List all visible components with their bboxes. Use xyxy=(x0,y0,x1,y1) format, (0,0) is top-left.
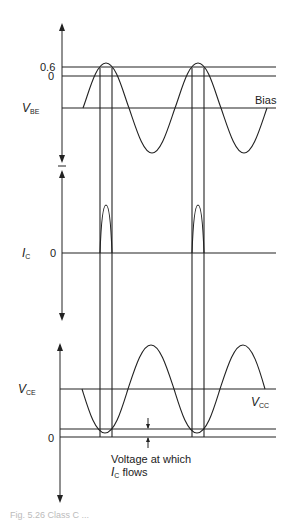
vbe-bias-label: Bias xyxy=(255,94,277,106)
ic-axis-arrow-down-icon xyxy=(59,313,65,321)
vbe-axis-arrow-up-icon xyxy=(59,23,65,31)
ic-axis-arrow-up-icon xyxy=(59,170,65,178)
vbe-level-0-label: 0 xyxy=(48,70,54,82)
vce-zero-label: 0 xyxy=(48,432,54,444)
vce-axis-arrow-up-icon xyxy=(57,343,63,351)
vbe-axis-arrow-down-icon xyxy=(59,155,65,163)
ic-pulse-1 xyxy=(100,205,112,253)
arrow-down-icon xyxy=(146,424,150,429)
ic-zero-label: 0 xyxy=(50,247,56,259)
ic-panel: 0 IC xyxy=(22,170,276,321)
arrow-up-icon xyxy=(146,437,150,442)
ic-axis-label: IC xyxy=(22,246,30,260)
vce-axis-arrow-down-icon xyxy=(57,495,63,503)
vce-annotation-line1: Voltage at which xyxy=(111,453,191,465)
vbe-panel: 0.6 0 Bias VBE xyxy=(22,23,277,166)
vce-axis-label: VCE xyxy=(18,382,36,396)
figure-caption: Fig. 5.26 Class C ... xyxy=(10,510,89,520)
vce-vcc-label: VCC xyxy=(251,395,269,409)
vbe-axis-label: VBE xyxy=(22,101,40,115)
vce-annotation-line2: IC flows xyxy=(111,465,148,479)
ic-pulse-2 xyxy=(192,205,204,253)
vce-panel: 0 VCC VCE Voltage at which IC flows xyxy=(18,343,276,503)
